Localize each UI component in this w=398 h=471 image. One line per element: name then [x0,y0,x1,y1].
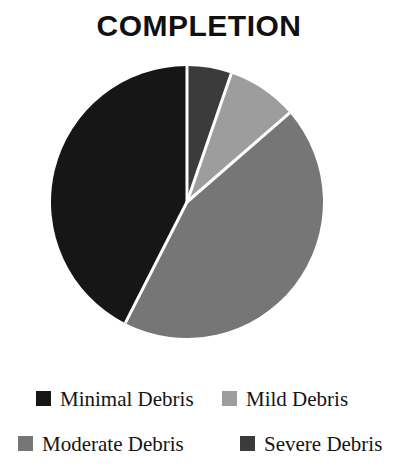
legend-swatch-icon [240,436,255,451]
pie-chart-svg [49,64,325,340]
legend-item-moderate-debris[interactable]: Moderate Debris [8,432,200,456]
legend-row: Moderate Debris Severe Debris [0,421,398,466]
legend-swatch-icon [18,436,33,451]
legend-label: Severe Debris [264,432,382,456]
chart-page: COMPLETION Minimal Debris Mild Debris Mo… [0,0,398,471]
legend-swatch-icon [36,391,51,406]
legend-swatch-icon [222,391,237,406]
legend-row: Minimal Debris Mild Debris [0,376,398,421]
legend-item-severe-debris[interactable]: Severe Debris [200,432,390,456]
legend-item-mild-debris[interactable]: Mild Debris [200,387,390,411]
legend-label: Minimal Debris [60,387,194,411]
chart-legend: Minimal Debris Mild Debris Moderate Debr… [0,376,398,466]
legend-label: Mild Debris [246,387,348,411]
chart-title: COMPLETION [0,8,398,44]
pie-chart [49,64,325,340]
legend-label: Moderate Debris [42,432,184,456]
legend-item-minimal-debris[interactable]: Minimal Debris [8,387,200,411]
